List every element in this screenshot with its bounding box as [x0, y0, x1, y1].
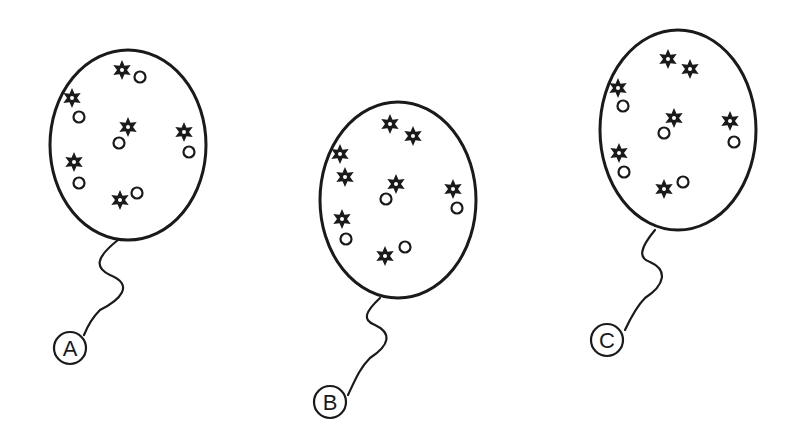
circle-particle-icon — [619, 167, 630, 178]
balloon-a: A — [50, 50, 206, 364]
balloon-b: B — [314, 102, 476, 418]
star-particle-icon — [387, 174, 404, 194]
circle-particle-icon — [74, 178, 85, 189]
star-particle-icon — [376, 246, 393, 266]
svg-text:B: B — [323, 390, 338, 415]
circle-particle-icon — [135, 72, 146, 83]
diagram-canvas: ABC — [0, 0, 794, 444]
star-particle-icon — [609, 78, 626, 98]
star-particle-icon — [610, 143, 627, 163]
star-particle-icon — [404, 126, 421, 146]
circle-particle-icon — [452, 203, 463, 214]
circle-particle-icon — [132, 188, 143, 199]
circle-particle-icon — [381, 194, 392, 205]
circle-particle-icon — [618, 101, 629, 112]
balloon-outline — [50, 50, 206, 240]
star-particle-icon — [63, 88, 80, 108]
star-particle-icon — [111, 190, 128, 210]
balloon-string — [84, 240, 123, 335]
svg-text:C: C — [599, 328, 615, 353]
star-particle-icon — [444, 179, 461, 199]
circle-particle-icon — [341, 234, 352, 245]
star-particle-icon — [119, 117, 136, 137]
circle-particle-icon — [184, 147, 195, 158]
balloon-c: C — [591, 30, 756, 356]
star-particle-icon — [681, 59, 698, 79]
balloon-label-c: C — [591, 324, 623, 356]
balloon-label-a: A — [54, 332, 86, 364]
circle-particle-icon — [659, 128, 670, 139]
balloon-diagram: ABC — [0, 0, 794, 444]
star-particle-icon — [333, 209, 350, 229]
balloon-label-b: B — [314, 386, 346, 418]
circle-particle-icon — [678, 177, 689, 188]
star-particle-icon — [336, 167, 353, 187]
circle-particle-icon — [729, 137, 740, 148]
balloon-outline — [600, 30, 756, 230]
circle-particle-icon — [114, 138, 125, 149]
circle-particle-icon — [400, 242, 411, 253]
balloon-string — [625, 230, 662, 330]
circle-particle-icon — [74, 112, 85, 123]
star-particle-icon — [175, 122, 192, 142]
star-particle-icon — [65, 152, 82, 172]
balloon-string — [348, 298, 386, 395]
star-particle-icon — [381, 114, 398, 134]
star-particle-icon — [113, 60, 130, 80]
star-particle-icon — [659, 49, 676, 69]
svg-text:A: A — [63, 336, 78, 361]
star-particle-icon — [665, 108, 682, 128]
balloon-outline — [320, 102, 476, 298]
star-particle-icon — [655, 179, 672, 199]
star-particle-icon — [721, 111, 738, 131]
